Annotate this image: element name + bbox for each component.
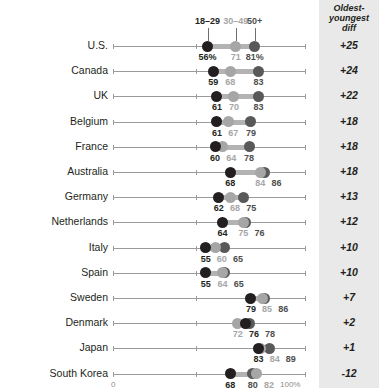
row-axis-line	[113, 197, 305, 198]
data-point-mid	[225, 66, 236, 77]
data-point-mid	[251, 368, 262, 379]
data-point-mid	[210, 242, 221, 253]
country-label: Australia	[0, 165, 108, 177]
range-connector	[213, 69, 258, 74]
country-label: Italy	[0, 241, 108, 253]
axis-tick	[113, 69, 114, 74]
axis-tick	[196, 195, 197, 200]
diff-header-line-3: diff	[319, 23, 379, 33]
diff-value: +7	[319, 291, 379, 303]
country-label: Sweden	[0, 291, 108, 303]
data-point-young	[240, 318, 251, 329]
country-label: South Korea	[0, 367, 108, 379]
axis-tick	[305, 372, 306, 377]
country-label: Spain	[0, 266, 108, 278]
data-point-young	[211, 91, 222, 102]
diff-value: +10	[319, 241, 379, 253]
value-label-old: 83	[228, 102, 288, 112]
value-label-old: 65	[208, 254, 268, 264]
data-point-mid	[225, 192, 236, 203]
axis-tick	[305, 44, 306, 49]
axis-tick	[196, 145, 197, 150]
diff-value: +18	[319, 165, 379, 177]
axis-tick	[305, 94, 306, 99]
axis-tick	[305, 69, 306, 74]
data-point-old	[238, 192, 249, 203]
value-label-old: 75	[221, 203, 281, 213]
data-point-mid	[255, 167, 266, 178]
data-point-old	[244, 141, 255, 152]
axis-label-min: 0	[111, 380, 115, 388]
value-label-old: 86	[253, 304, 313, 314]
value-label-old: 79	[221, 128, 281, 138]
diff-value: +2	[319, 316, 379, 328]
value-label-old: 86	[247, 178, 307, 188]
data-point-old	[253, 66, 264, 77]
value-label-old: 89	[261, 354, 321, 364]
axis-tick	[305, 321, 306, 326]
data-point-young	[208, 66, 219, 77]
data-point-young	[225, 167, 236, 178]
row-axis-line	[113, 172, 305, 173]
axis-tick	[196, 170, 197, 175]
data-point-young	[213, 192, 224, 203]
data-point-mid	[230, 41, 241, 52]
data-point-young	[211, 116, 222, 127]
axis-tick	[113, 296, 114, 301]
axis-tick	[113, 94, 114, 99]
age-gap-dot-chart: Oldest- youngest diff 18–29 30–49 50+ 0 …	[0, 0, 379, 388]
data-point-young	[210, 141, 221, 152]
axis-tick	[196, 321, 197, 326]
axis-tick	[196, 372, 197, 377]
value-label-old: 78	[219, 153, 279, 163]
axis-tick	[113, 120, 114, 125]
axis-tick	[196, 120, 197, 125]
axis-tick	[113, 170, 114, 175]
data-point-young	[225, 368, 236, 379]
diff-value: +22	[319, 89, 379, 101]
axis-tick	[196, 44, 197, 49]
legend-stem	[255, 28, 256, 41]
value-label-old: 65	[209, 279, 269, 289]
country-label: Denmark	[0, 316, 108, 328]
country-label: Belgium	[0, 115, 108, 127]
value-label-old: 83	[228, 77, 288, 87]
row-axis-line	[113, 222, 305, 223]
data-point-mid	[238, 217, 249, 228]
axis-tick	[305, 195, 306, 200]
axis-tick	[113, 220, 114, 225]
axis-tick	[305, 220, 306, 225]
diff-value: +18	[319, 115, 379, 127]
axis-tick	[305, 145, 306, 150]
axis-tick	[113, 145, 114, 150]
data-point-old	[245, 116, 256, 127]
country-label: U.S.	[0, 39, 108, 51]
axis-tick	[196, 94, 197, 99]
diff-value: +10	[319, 266, 379, 278]
axis-tick	[196, 296, 197, 301]
legend-stem	[236, 28, 237, 41]
axis-tick	[113, 44, 114, 49]
axis-tick	[113, 246, 114, 251]
axis-tick	[305, 246, 306, 251]
diff-header-line-1: Oldest-	[319, 3, 379, 13]
diff-value: +25	[319, 39, 379, 51]
data-point-young	[253, 343, 264, 354]
data-point-young	[200, 267, 211, 278]
value-label-mid: 82	[239, 380, 299, 388]
country-label: Canada	[0, 64, 108, 76]
diff-value: +1	[319, 341, 379, 353]
value-label-old: 81%	[225, 52, 285, 62]
axis-tick	[305, 120, 306, 125]
country-label: Netherlands	[0, 215, 108, 227]
diff-value: +18	[319, 140, 379, 152]
axis-tick	[113, 271, 114, 276]
axis-tick	[196, 271, 197, 276]
data-point-old	[219, 242, 230, 253]
country-label: UK	[0, 89, 108, 101]
legend-label-50-plus: 50+	[225, 16, 285, 26]
axis-tick	[305, 170, 306, 175]
axis-tick	[113, 372, 114, 377]
data-point-young	[245, 293, 256, 304]
diff-value: +12	[319, 215, 379, 227]
